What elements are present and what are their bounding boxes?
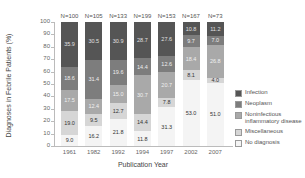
bar-2002: 53.08.118.49.710.8 — [183, 22, 200, 146]
bar-segment: 18.4 — [183, 47, 200, 70]
bar-1994: 11.814.430.714.428.7 — [134, 22, 151, 146]
bar-segment: 10.8 — [183, 22, 200, 35]
legend-label: Neoplasm — [245, 100, 272, 107]
segment-value-label: 30.5 — [85, 38, 102, 44]
bar-segment: 28.7 — [134, 22, 151, 58]
legend-item: Neoplasm — [235, 100, 305, 108]
legend-swatch-icon — [235, 90, 242, 97]
bar-segment: 9.5 — [85, 114, 102, 126]
bar-segment: 15.0 — [110, 85, 127, 104]
y-tick-label: 30 — [34, 105, 50, 111]
bar-segment: 17.5 — [61, 90, 78, 112]
y-tick-label: 70 — [34, 55, 50, 61]
segment-value-label: 14.4 — [134, 119, 151, 125]
bar-segment: 7.0 — [207, 36, 224, 45]
segment-value-label: 19.6 — [110, 69, 127, 75]
legend-item: Infection — [235, 89, 305, 97]
segment-value-label: 31.4 — [85, 76, 102, 82]
bar-segment: 51.0 — [207, 83, 224, 146]
legend-swatch-icon — [235, 129, 242, 136]
segment-value-label: 12.7 — [110, 108, 127, 114]
legend-item: Miscellaneous — [235, 128, 305, 136]
segment-value-label: 9.5 — [85, 117, 102, 123]
y-tick-label: 100 — [34, 18, 50, 24]
segment-value-label: 7.0 — [207, 37, 224, 43]
segment-value-label: 35.9 — [61, 41, 78, 47]
bar-segment: 30.7 — [134, 75, 151, 113]
legend-swatch-icon — [235, 140, 242, 147]
bar-2007: 51.04.026.87.011.2 — [207, 22, 224, 146]
bar-segment: 12.4 — [85, 99, 102, 114]
bar-segment: 19.6 — [110, 60, 127, 84]
bar-segment: 16.2 — [85, 126, 102, 146]
bar-segment: 9.0 — [61, 135, 78, 146]
segment-value-label: 9.0 — [61, 137, 78, 143]
x-tick-label: 2007 — [200, 149, 230, 155]
legend: InfectionNeoplasmNoninfectious inflammat… — [235, 89, 305, 150]
bar-segment: 31.3 — [158, 107, 175, 146]
bar-segment: 11.8 — [134, 131, 151, 146]
bar-segment: 14.4 — [134, 58, 151, 76]
segment-value-label: 10.8 — [183, 26, 200, 32]
bar-segment: 9.7 — [183, 35, 200, 47]
legend-item: Noninfectious inflammatory disease — [235, 111, 305, 125]
segment-value-label: 12.4 — [85, 103, 102, 109]
bar-segment: 20.7 — [158, 72, 175, 98]
segment-value-label: 51.0 — [207, 111, 224, 117]
x-axis-title: Publication Year — [54, 161, 232, 168]
sample-size-label: N=73 — [200, 13, 230, 19]
segment-value-label: 14.4 — [134, 64, 151, 70]
bar-segment: 8.1 — [183, 70, 200, 80]
legend-swatch-icon — [235, 112, 242, 119]
bar-segment: 14.4 — [134, 114, 151, 132]
segment-value-label: 4.0 — [207, 77, 224, 83]
legend-swatch-icon — [235, 101, 242, 108]
segment-value-label: 11.2 — [207, 26, 224, 32]
segment-value-label: 8.1 — [183, 72, 200, 78]
bar-segment: 19.0 — [61, 111, 78, 135]
segment-value-label: 18.4 — [183, 56, 200, 62]
plot-area: 9.019.017.518.635.916.29.512.431.430.521… — [54, 22, 233, 147]
legend-label: Miscellaneous — [245, 128, 283, 135]
bar-1992: 21.812.715.019.630.9 — [110, 22, 127, 146]
bar-1997: 31.37.820.712.627.6 — [158, 22, 175, 146]
segment-value-label: 12.6 — [158, 61, 175, 67]
bar-1982: 16.29.512.431.430.5 — [85, 22, 102, 146]
bar-segment: 53.0 — [183, 80, 200, 146]
y-tick-label: 0 — [34, 142, 50, 148]
segment-value-label: 53.0 — [183, 110, 200, 116]
bar-segment: 18.6 — [61, 67, 78, 90]
bar-segment: 26.8 — [207, 45, 224, 78]
segment-value-label: 9.7 — [183, 38, 200, 44]
segment-value-label: 26.8 — [207, 58, 224, 64]
legend-label: Noninfectious inflammatory disease — [245, 111, 305, 125]
segment-value-label: 31.3 — [158, 124, 175, 130]
bar-segment: 30.5 — [85, 22, 102, 60]
stacked-bar-chart: Diagnoses in Febrile Patients (%) 010203… — [0, 0, 305, 178]
y-tick-label: 60 — [34, 68, 50, 74]
y-axis-title: Diagnoses in Febrile Patients (%) — [2, 20, 16, 150]
segment-value-label: 28.7 — [134, 37, 151, 43]
segment-value-label: 27.6 — [158, 36, 175, 42]
segment-value-label: 11.8 — [134, 136, 151, 142]
bar-segment: 21.8 — [110, 119, 127, 146]
y-tick-label: 90 — [34, 30, 50, 36]
bar-1961: 9.019.017.518.635.9 — [61, 22, 78, 146]
bar-segment: 31.4 — [85, 60, 102, 99]
legend-item: No diagnosis — [235, 139, 305, 147]
segment-value-label: 15.0 — [110, 91, 127, 97]
segment-value-label: 19.0 — [61, 120, 78, 126]
segment-value-label: 21.8 — [110, 129, 127, 135]
bar-segment: 11.2 — [207, 22, 224, 36]
bar-segment: 4.0 — [207, 78, 224, 83]
y-tick-label: 20 — [34, 117, 50, 123]
segment-value-label: 30.9 — [110, 38, 127, 44]
segment-value-label: 18.6 — [61, 75, 78, 81]
segment-value-label: 20.7 — [158, 82, 175, 88]
legend-label: Infection — [245, 89, 268, 96]
segment-value-label: 16.2 — [85, 133, 102, 139]
bar-segment: 12.6 — [158, 56, 175, 72]
bar-segment: 35.9 — [61, 22, 78, 67]
segment-value-label: 7.8 — [158, 99, 175, 105]
y-tick-label: 50 — [34, 80, 50, 86]
